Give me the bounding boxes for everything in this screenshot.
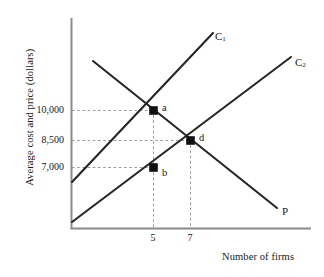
curve-c1 <box>72 33 213 182</box>
marker-b <box>149 163 158 172</box>
curve-label-c2-subscript: 2 <box>302 61 306 69</box>
y-tick-label-10000: 10,000 <box>8 105 64 115</box>
marker-d <box>186 136 195 145</box>
point-label-a: a <box>162 103 167 114</box>
y-tick-label-8500: 8,500 <box>8 135 64 145</box>
marker-a <box>149 106 158 115</box>
y-tick-label-7000: 7,000 <box>8 162 64 172</box>
curve-label-c2: C2 <box>295 57 306 68</box>
curve-label-c1-subscript: 1 <box>222 35 226 43</box>
x-axis-title: Number of firms <box>222 252 294 263</box>
data-point-markers <box>149 106 195 172</box>
curve-label-c1: C1 <box>215 31 226 42</box>
guide-lines <box>72 110 191 228</box>
point-label-b: b <box>162 168 167 179</box>
curves <box>72 33 291 222</box>
x-tick-label-7: 7 <box>180 233 200 243</box>
y-axis-title: Average cost and price (dollars) <box>25 32 36 202</box>
economics-chart: Average cost and price (dollars) Number … <box>0 0 324 277</box>
curve-label-p: P <box>282 206 288 217</box>
curve-c2 <box>72 57 291 222</box>
point-label-d: d <box>199 133 204 144</box>
x-tick-label-5: 5 <box>143 233 163 243</box>
